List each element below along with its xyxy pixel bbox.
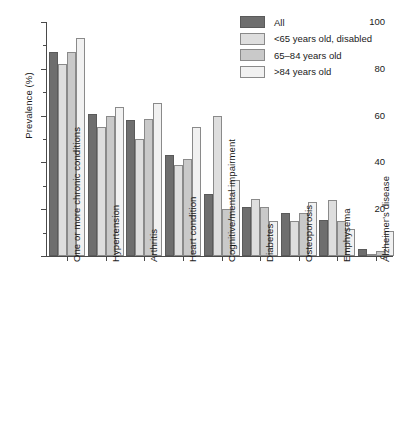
legend-swatch xyxy=(240,66,265,78)
x-axis-label: Hypertension xyxy=(110,205,121,262)
y-axis-title: Prevalence (%) xyxy=(23,46,34,166)
bar xyxy=(328,200,337,256)
legend-label: 65–84 years old xyxy=(274,50,342,61)
x-axis-label: Emphysema xyxy=(341,208,352,262)
y-tick-minor-30 xyxy=(43,186,46,187)
bar xyxy=(88,114,97,256)
prevalence-bar-chart: Prevalence (%) 020406080100 One or more … xyxy=(0,0,415,425)
y-tick-60 xyxy=(41,116,46,117)
bar xyxy=(165,155,174,256)
legend-item: All xyxy=(240,14,372,31)
x-tick xyxy=(299,256,300,261)
x-axis-label: Osteoporosis xyxy=(303,205,314,262)
bar xyxy=(135,139,144,256)
legend-label: <65 years old, disabled xyxy=(274,33,372,44)
bar xyxy=(251,199,260,256)
legend-swatch xyxy=(240,16,265,28)
x-axis-label: Arthritis xyxy=(148,229,159,262)
x-axis-label: Heart condition xyxy=(187,197,198,262)
chart-legend: All<65 years old, disabled65–84 years ol… xyxy=(240,14,372,80)
bar xyxy=(367,254,376,256)
y-tick-80 xyxy=(41,69,46,70)
x-axis-label: One or more chronic conditions xyxy=(71,127,82,262)
legend-label: >84 years old xyxy=(274,66,331,77)
bar xyxy=(319,220,328,256)
legend-item: >84 years old xyxy=(240,64,372,81)
y-axis-line xyxy=(46,22,47,256)
bar xyxy=(58,64,67,256)
x-tick xyxy=(67,256,68,261)
bar xyxy=(97,127,106,256)
x-axis-label: Diabetes xyxy=(264,224,275,262)
bar xyxy=(49,52,58,256)
bar xyxy=(290,221,299,256)
bar xyxy=(204,194,213,256)
bar xyxy=(281,213,290,256)
legend-swatch xyxy=(240,49,265,61)
bar xyxy=(126,120,135,256)
y-tick-100 xyxy=(41,22,46,23)
bar-group xyxy=(126,22,162,256)
x-tick xyxy=(222,256,223,261)
y-tick-40 xyxy=(41,162,46,163)
legend-item: 65–84 years old xyxy=(240,47,372,64)
y-tick-20 xyxy=(41,209,46,210)
legend-swatch xyxy=(240,33,265,45)
y-tick-minor-90 xyxy=(43,45,46,46)
x-axis-label: Alzheimer's disease xyxy=(380,176,391,262)
x-tick xyxy=(144,256,145,261)
y-tick-0 xyxy=(41,256,46,257)
x-axis-label: Cognitive/mental impairment xyxy=(226,139,237,262)
legend-item: <65 years old, disabled xyxy=(240,31,372,48)
x-tick xyxy=(106,256,107,261)
bar xyxy=(174,165,183,256)
x-tick xyxy=(260,256,261,261)
bar xyxy=(242,207,251,256)
x-tick xyxy=(376,256,377,261)
x-tick xyxy=(337,256,338,261)
y-tick-minor-50 xyxy=(43,139,46,140)
x-tick xyxy=(183,256,184,261)
bar xyxy=(358,249,367,256)
y-tick-minor-70 xyxy=(43,92,46,93)
y-tick-minor-10 xyxy=(43,233,46,234)
legend-label: All xyxy=(274,17,285,28)
bar xyxy=(213,116,222,256)
